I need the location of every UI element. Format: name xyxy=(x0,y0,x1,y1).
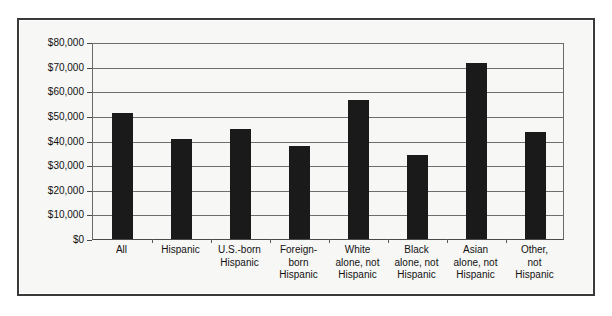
chart-figure-frame: $0$10,000$20,000$30,000$40,000$50,000$60… xyxy=(17,18,595,296)
bar xyxy=(348,100,369,239)
gridline xyxy=(93,191,563,192)
x-axis-category-label: Asian alone, not Hispanic xyxy=(446,244,505,282)
y-axis-tick-mark xyxy=(87,166,92,167)
bar xyxy=(112,113,133,239)
x-axis-tick-mark xyxy=(388,239,389,243)
x-axis-tick-mark xyxy=(506,239,507,243)
x-axis-tick-mark xyxy=(447,239,448,243)
y-axis-tick-label: $50,000 xyxy=(16,112,84,122)
y-axis-tick-label: $10,000 xyxy=(16,210,84,220)
gridline xyxy=(93,92,563,93)
y-axis-tick-mark xyxy=(87,215,92,216)
bar xyxy=(289,146,310,239)
x-axis-tick-mark xyxy=(270,239,271,243)
x-axis-category-label: U.S.-born Hispanic xyxy=(210,244,269,269)
y-axis-tick-mark xyxy=(87,68,92,69)
y-axis-tick-mark xyxy=(87,240,92,241)
bar xyxy=(407,155,428,239)
x-axis-category-label: Black alone, not Hispanic xyxy=(387,244,446,282)
y-axis-tick-mark xyxy=(87,92,92,93)
x-axis-tick-mark xyxy=(211,239,212,243)
y-axis-tick-label: $40,000 xyxy=(16,137,84,147)
y-axis-tick-label: $80,000 xyxy=(16,38,84,48)
y-axis-tick-label: $70,000 xyxy=(16,63,84,73)
gridline xyxy=(93,215,563,216)
y-axis-tick-label: $60,000 xyxy=(16,87,84,97)
bar xyxy=(171,139,192,239)
bar-chart: $0$10,000$20,000$30,000$40,000$50,000$60… xyxy=(19,20,597,298)
y-axis-tick-label: $0 xyxy=(16,235,84,245)
x-axis-category-label: Foreign- born Hispanic xyxy=(269,244,328,282)
y-axis-tick-mark xyxy=(87,191,92,192)
gridline xyxy=(93,142,563,143)
y-axis-tick-mark xyxy=(87,43,92,44)
bar xyxy=(466,63,487,239)
y-axis-tick-mark xyxy=(87,142,92,143)
x-axis-tick-mark xyxy=(329,239,330,243)
x-axis-category-label: Hispanic xyxy=(151,244,210,257)
gridline xyxy=(93,68,563,69)
gridline xyxy=(93,117,563,118)
plot-area xyxy=(92,43,564,240)
x-axis-category-label: White alone, not Hispanic xyxy=(328,244,387,282)
y-axis-tick-label: $30,000 xyxy=(16,161,84,171)
x-axis-category-label: All xyxy=(92,244,151,257)
gridline xyxy=(93,43,563,44)
bar xyxy=(230,129,251,239)
x-axis-category-label: Other, not Hispanic xyxy=(505,244,564,282)
bar xyxy=(525,132,546,239)
gridline xyxy=(93,166,563,167)
y-axis-tick-label: $20,000 xyxy=(16,186,84,196)
x-axis-tick-mark xyxy=(152,239,153,243)
y-axis-tick-mark xyxy=(87,117,92,118)
